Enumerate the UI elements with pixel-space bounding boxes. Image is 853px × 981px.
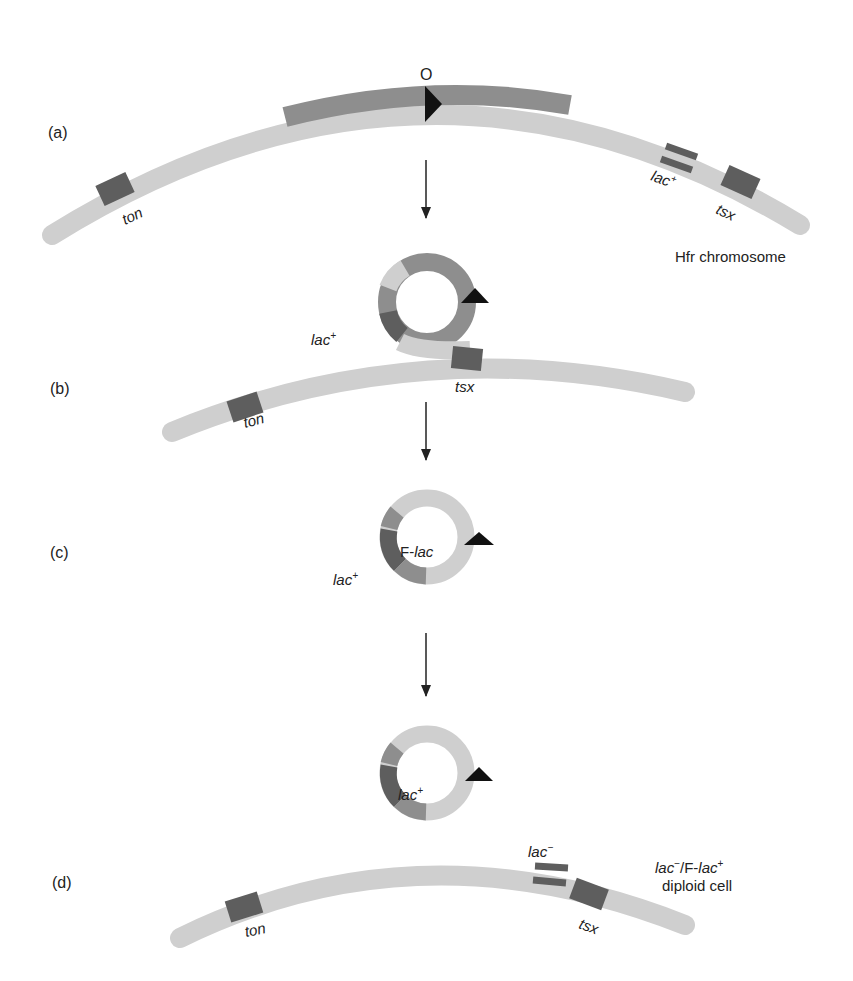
hfr-chromosome-caption: Hfr chromosome	[675, 248, 786, 265]
loop-lac-gene	[388, 312, 402, 335]
lac-label-plasmid-d: lac+	[398, 785, 423, 803]
f-lac-formation-diagram: (a) O ton lac+ tsx Hfr chromosome (b) la…	[0, 0, 853, 981]
ton-label: ton	[119, 203, 145, 227]
ton-gene-d	[228, 902, 260, 912]
lac-minus-strand2	[533, 880, 566, 883]
tsx-gene	[725, 175, 756, 189]
panel-a-label: (a)	[48, 124, 68, 141]
lac-label-c: lac+	[333, 570, 358, 588]
panel-d-label: (d)	[52, 874, 72, 891]
panel-c-label: (c)	[50, 544, 69, 561]
plasmid-lac-gene	[388, 530, 400, 565]
ton-label-d: ton	[243, 919, 267, 940]
plasmid-f-segment-2	[400, 565, 426, 576]
tsx-label-d: tsx	[577, 915, 601, 938]
panel-b-label: (b)	[50, 380, 70, 397]
tsx-gene-d	[573, 888, 605, 900]
tsx-label: tsx	[714, 200, 739, 224]
ton-gene	[100, 182, 130, 196]
lac-label-b: lac+	[311, 330, 336, 348]
panel-a: (a) O ton lac+ tsx Hfr chromosome	[48, 66, 800, 265]
panel-c: (c) F-lac lac+	[50, 498, 494, 588]
diploid-caption-line1: lac−/F-lac+	[655, 858, 724, 876]
lac-minus-strand1	[535, 866, 568, 868]
panel-d: (d) lac+ lac− ton tsx lac−/F-lac+ diploi…	[52, 734, 732, 940]
panel-b: (b) lac+ ton tsx	[50, 262, 685, 432]
origin-label: O	[420, 66, 432, 83]
plasmid-f-segment	[389, 512, 397, 528]
lac-minus-label: lac−	[528, 842, 553, 860]
tsx-label-b: tsx	[455, 378, 475, 395]
diploid-caption-line2: diploid cell	[662, 877, 732, 894]
plasmid-name-label: F-lac	[400, 543, 434, 560]
loop-light-segment	[388, 268, 405, 288]
tsx-gene-b	[452, 357, 482, 360]
plasmid-d-f-segment	[389, 748, 397, 764]
